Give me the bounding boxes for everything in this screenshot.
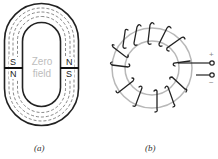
caption-a: (a) <box>34 143 45 153</box>
right-upper-pole: N <box>66 57 73 67</box>
zero-field-line2: field <box>26 68 58 80</box>
toroid-inner-ring <box>125 41 179 95</box>
zero-field-line1: Zero <box>26 56 58 68</box>
negative-terminal <box>210 73 214 77</box>
positive-sign: + <box>209 50 214 59</box>
toroid <box>111 23 215 112</box>
zero-field-label: Zero field <box>26 56 58 80</box>
left-lower-pole: N <box>10 69 17 79</box>
positive-terminal <box>210 61 214 65</box>
right-lower-pole: S <box>66 69 72 79</box>
left-upper-pole: S <box>10 57 16 67</box>
caption-b: (b) <box>145 143 156 153</box>
negative-sign: − <box>209 78 214 87</box>
